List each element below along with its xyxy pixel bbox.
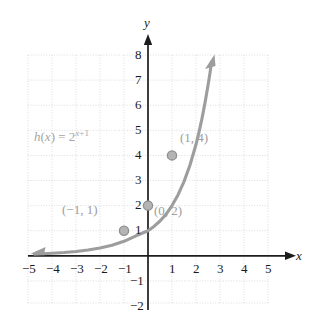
x-tick-label--3: −3 <box>70 262 84 275</box>
x-tick-label-2: 2 <box>193 262 200 275</box>
point-marker-neg1-1 <box>119 226 128 235</box>
x-tick-label-4: 4 <box>241 262 248 275</box>
y-tick-label-7: 7 <box>135 73 142 86</box>
y-tick-label-1: 1 <box>135 223 142 236</box>
y-tick-label--2: −2 <box>130 299 144 312</box>
curve-right-arrowhead <box>205 55 216 70</box>
axes <box>28 34 296 310</box>
x-tick-label-3: 3 <box>217 262 224 275</box>
point-marker-1-4 <box>167 151 176 160</box>
function-curve-group <box>31 55 216 256</box>
x-tick-label-5: 5 <box>265 262 272 275</box>
function-exponent: x+1 <box>75 128 89 138</box>
x-tick-label--5: −5 <box>22 262 36 275</box>
x-tick-label--4: −4 <box>46 262 60 275</box>
function-expression-label: h(x) = 2x+1 <box>34 130 89 143</box>
y-tick-label-8: 8 <box>135 48 142 61</box>
y-axis-arrowhead <box>144 34 152 45</box>
y-tick-label-3: 3 <box>135 173 142 186</box>
point-label-1-4: (1, 4) <box>180 131 208 144</box>
function-curve <box>35 62 212 254</box>
y-tick-label--1: −1 <box>130 274 144 287</box>
point-label-0-2: (0, 2) <box>154 204 182 217</box>
point-marker-0-2 <box>143 201 152 210</box>
exponential-function-graph-figure: −5 −4 −3 −2 −1 1 2 3 4 5 8 7 6 5 4 3 2 1… <box>0 0 310 320</box>
y-tick-label-2: 2 <box>135 198 142 211</box>
y-tick-label-6: 6 <box>135 98 142 111</box>
y-tick-label-5: 5 <box>135 123 142 136</box>
y-tick-label-4: 4 <box>135 148 142 161</box>
curve-left-arrowhead <box>31 247 46 255</box>
point-label-neg1-1: (−1, 1) <box>62 203 98 216</box>
x-tick-label-1: 1 <box>169 262 176 275</box>
x-tick-label--2: −2 <box>94 262 108 275</box>
y-axis-label: y <box>144 16 150 29</box>
function-exponent-rest: +1 <box>79 128 89 138</box>
function-equals: = <box>55 129 69 144</box>
x-axis-arrowhead <box>285 252 296 260</box>
x-axis-label: x <box>296 249 302 262</box>
